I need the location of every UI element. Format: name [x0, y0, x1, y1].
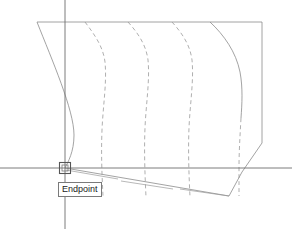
- osnap-tooltip-label: Endpoint: [62, 184, 98, 194]
- profile-curve-2: [85, 22, 106, 196]
- cad-drawing-viewport[interactable]: Endpoint: [0, 0, 292, 229]
- profile-curve-4: [172, 22, 193, 197]
- bottom-hatch-segment: [66, 170, 118, 179]
- profile-curve-3: [128, 22, 149, 197]
- drawing-canvas[interactable]: [0, 0, 292, 229]
- profile-curve-5-solid-part: [210, 22, 242, 118]
- right-edge-line: [242, 22, 262, 172]
- profile-curve-1: [37, 22, 74, 168]
- bottom-hatch-segment: [180, 189, 229, 196]
- profile-curve-5-hidden-part: [239, 118, 241, 196]
- osnap-tooltip: Endpoint: [58, 182, 102, 197]
